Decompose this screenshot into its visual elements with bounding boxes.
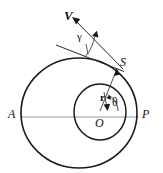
label-origin: O — [95, 117, 104, 129]
velocity-vector-arrowhead — [72, 17, 80, 24]
label-true-anomaly: θ — [112, 96, 118, 108]
gamma-arc-arrowhead — [92, 31, 98, 38]
label-flight-path-angle: γ — [77, 31, 82, 42]
gamma-angle-arc — [86, 34, 96, 57]
diagram-svg — [0, 0, 163, 173]
gamma-leader-line — [86, 44, 88, 54]
label-point-s: S — [120, 56, 126, 68]
label-apoapsis: A — [8, 108, 15, 120]
r-leader-arrowhead — [104, 104, 111, 111]
label-velocity: V — [64, 9, 73, 22]
label-radius: r — [100, 92, 105, 103]
label-periapsis: P — [142, 108, 149, 120]
figure-canvas: V S A P O r θ γ — [0, 0, 163, 173]
tangent-line-at-s — [56, 45, 124, 72]
